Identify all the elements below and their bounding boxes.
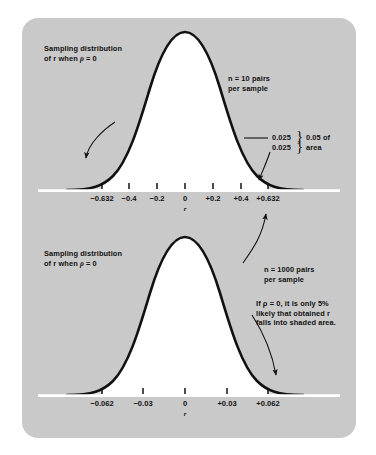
bottom-tick-label-4: +0.062 [256,399,279,408]
top-sample-size-label: n = 10 pairs per sample [228,74,270,93]
note-line3: falls into shaded area. [256,318,336,328]
top-axis-name: r [184,205,187,213]
top-n-line2: per sample [228,84,270,94]
bottom-sample-size-label: n = 1000 pairs per sample [264,265,315,284]
top-area-line1: 0.05 of [306,133,330,143]
top-tail-value-upper: 0.025 [272,133,291,143]
top-tick-label-3: 0 [183,194,187,203]
note-line2: likely that obtained r [256,309,336,319]
top-tick-label-5: +0.4 [234,194,249,203]
bottom-tick-label-0: −0.062 [90,399,113,408]
note-line1: If ρ = 0, it is only 5% [256,299,336,309]
bottom-n-line1: n = 1000 pairs [264,265,315,275]
top-caption-line1: Sampling distribution [44,44,122,54]
top-tick-label-4: +0.2 [206,194,221,203]
top-area-label: 0.05 of area [306,133,330,152]
left-tail-arrow [86,122,115,158]
top-area-line2: area [306,143,330,153]
bottom-caption-line2: of r when ρ = 0 [44,259,122,269]
bottom-axis-name: r [184,410,187,418]
top-caption-line2: of r when ρ = 0 [44,54,122,64]
figure-graphics [0,0,376,455]
top-tick-label-1: −0.4 [122,194,137,203]
right-tail-arrow [259,152,270,180]
top-n-line1: n = 10 pairs [228,74,270,84]
bottom-explanation-note: If ρ = 0, it is only 5% likely that obta… [256,299,336,328]
top-tick-label-0: −0.632 [90,194,113,203]
bottom-tick-label-3: +0.03 [217,399,236,408]
top-chart-caption: Sampling distribution of r when ρ = 0 [44,44,122,63]
bottom-caption-line1: Sampling distribution [44,249,122,259]
bottom-tick-label-2: 0 [183,399,187,408]
top-tick-label-6: +0.632 [256,194,279,203]
brace-lower-icon: } [296,139,303,154]
bottom-tick-label-1: −0.03 [133,399,152,408]
top-tail-value-lower: 0.025 [272,143,291,153]
top-tick-label-2: −0.2 [150,194,165,203]
bottom-chart-caption: Sampling distribution of r when ρ = 0 [44,249,122,268]
cross-panel-arrow [243,214,266,263]
bottom-n-line2: per sample [264,275,315,285]
